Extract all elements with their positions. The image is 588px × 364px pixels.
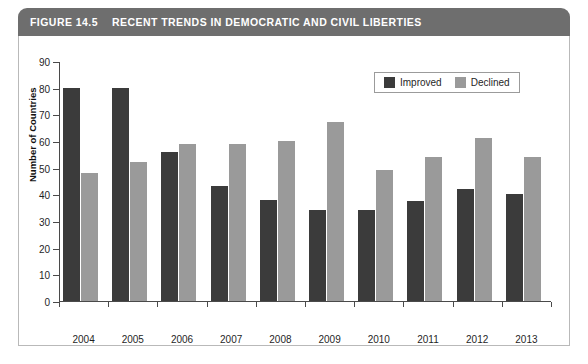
bar-improved-2005 (112, 88, 129, 301)
x-tick-mark (354, 302, 355, 307)
bar-improved-2012 (457, 189, 474, 301)
y-tick-label: 20 (39, 243, 50, 254)
bar-group (453, 62, 502, 301)
bar-improved-2013 (506, 194, 523, 301)
x-tick-mark (403, 302, 404, 307)
bar-group (59, 62, 108, 301)
bar-group (354, 62, 403, 301)
bar-improved-2008 (260, 200, 277, 301)
bar-improved-2009 (309, 210, 326, 301)
y-tick-label: 90 (39, 57, 50, 68)
figure-number-label: FIGURE 14.5 (30, 16, 98, 28)
bar-improved-2007 (211, 186, 228, 301)
x-tick-label: 2010 (355, 334, 403, 345)
y-axis-title: Number of Countries (27, 88, 38, 182)
y-tick-label: 80 (39, 83, 50, 94)
figure-title: RECENT TRENDS IN DEMOCRATIC AND CIVIL LI… (112, 16, 422, 28)
y-tick-label: 40 (39, 190, 50, 201)
bar-declined-2004 (81, 173, 98, 301)
x-tick-label: 2013 (502, 334, 550, 345)
chart-plot-frame: Number of Countries Improved Declined 01… (18, 36, 570, 346)
bar-group (108, 62, 157, 301)
chart-plot-area: Number of Countries Improved Declined 01… (19, 36, 569, 345)
bar-declined-2009 (327, 122, 344, 301)
axis-area: 0102030405060708090 20042005200620072008… (59, 62, 551, 302)
bar-group (157, 62, 206, 301)
y-tick-label: 10 (39, 270, 50, 281)
bar-group (256, 62, 305, 301)
x-tick-label: 2007 (207, 334, 255, 345)
bar-declined-2013 (524, 157, 541, 301)
bar-declined-2007 (229, 144, 246, 301)
x-tick-label: 2008 (256, 334, 304, 345)
y-tick-label: 0 (44, 297, 50, 308)
x-tick-mark (108, 302, 109, 307)
x-tick-label: 2006 (158, 334, 206, 345)
x-tick-label: 2012 (453, 334, 501, 345)
bar-declined-2005 (130, 162, 147, 301)
y-tick-label: 50 (39, 163, 50, 174)
bar-declined-2011 (425, 157, 442, 301)
bar-improved-2010 (358, 210, 375, 301)
bar-group (305, 62, 354, 301)
x-tick-mark (551, 302, 552, 307)
bar-declined-2010 (376, 170, 393, 301)
bar-improved-2006 (161, 152, 178, 301)
y-tick-label: 70 (39, 110, 50, 121)
bar-group (207, 62, 256, 301)
y-tick-label: 30 (39, 217, 50, 228)
x-tick-mark (305, 302, 306, 307)
bar-improved-2011 (407, 201, 424, 301)
bar-group (502, 62, 551, 301)
figure-header-banner: FIGURE 14.5 RECENT TRENDS IN DEMOCRATIC … (18, 8, 570, 36)
bar-declined-2012 (475, 138, 492, 301)
x-tick-mark (256, 302, 257, 307)
x-tick-mark (207, 302, 208, 307)
x-tick-mark (59, 302, 60, 307)
x-tick-mark (157, 302, 158, 307)
source-note (18, 355, 570, 364)
x-tick-mark (502, 302, 503, 307)
x-tick-label: 2009 (306, 334, 354, 345)
bar-declined-2006 (179, 144, 196, 301)
x-tick-label: 2011 (404, 334, 452, 345)
x-tick-mark (453, 302, 454, 307)
figure-card: FIGURE 14.5 RECENT TRENDS IN DEMOCRATIC … (18, 8, 570, 346)
y-tick-label: 60 (39, 137, 50, 148)
x-tick-label: 2004 (60, 334, 108, 345)
bar-group (403, 62, 452, 301)
x-tick-label: 2005 (109, 334, 157, 345)
bar-improved-2004 (63, 88, 80, 301)
bar-declined-2008 (278, 141, 295, 301)
